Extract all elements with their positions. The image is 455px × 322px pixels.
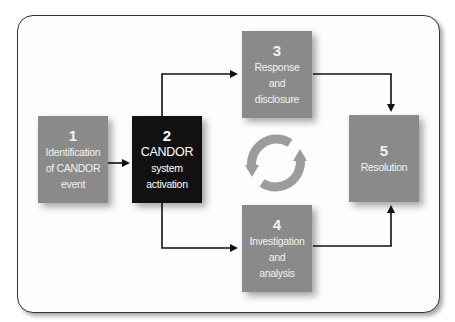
step-number: 2 <box>163 128 171 144</box>
step-5-resolution: 5 Resolution <box>349 115 419 202</box>
step-2-system-activation: 2 CANDOR system activation <box>132 116 202 203</box>
step-label-line: disclosure <box>255 91 299 107</box>
step-label-line: and <box>269 75 286 91</box>
step-label-line: Identification <box>46 144 101 160</box>
step-label-line: system <box>151 160 182 176</box>
step-label-line: Investigation <box>249 233 304 249</box>
step-label-line: of CANDOR <box>46 160 100 176</box>
step-number: 5 <box>380 143 388 159</box>
step-number: 4 <box>273 217 281 233</box>
step-number: 3 <box>273 43 281 59</box>
step-label-line: event <box>61 176 85 192</box>
step-label-line: activation <box>146 176 187 192</box>
step-label-line: and <box>269 249 286 265</box>
step-label-line: CANDOR <box>141 144 193 160</box>
step-label-line: analysis <box>259 265 295 281</box>
step-4-investigation-analysis: 4 Investigation and analysis <box>242 205 312 292</box>
step-label-line: Response <box>255 59 300 75</box>
step-1-identification: 1 Identification of CANDOR event <box>38 116 108 203</box>
step-3-response-disclosure: 3 Response and disclosure <box>242 31 312 118</box>
step-number: 1 <box>69 128 77 144</box>
step-label-line: Resolution <box>361 159 408 175</box>
